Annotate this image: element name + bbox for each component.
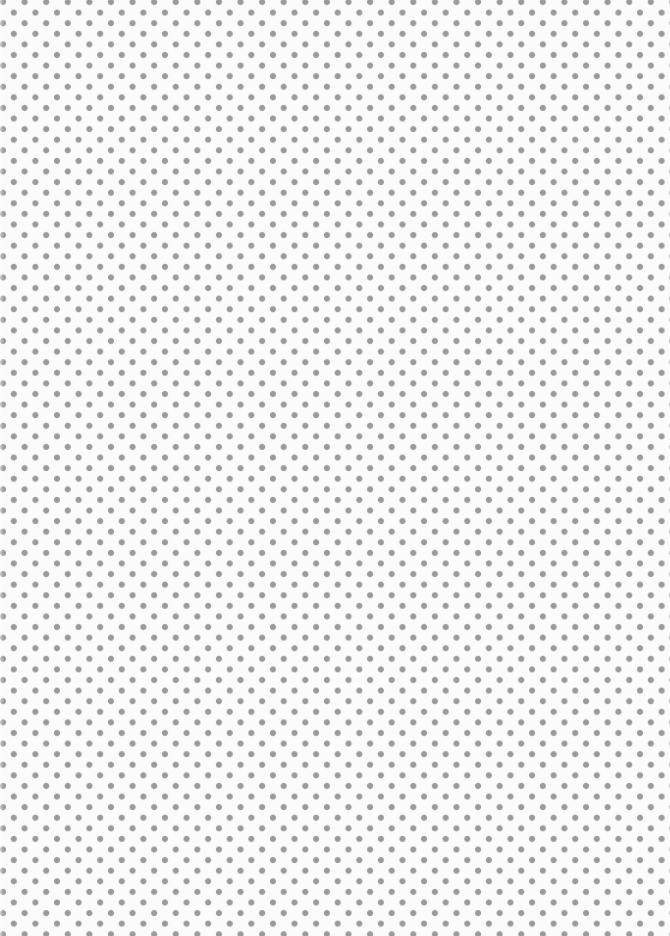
left-edge-fade: [0, 0, 4, 936]
polka-dot-pattern: [0, 0, 670, 936]
